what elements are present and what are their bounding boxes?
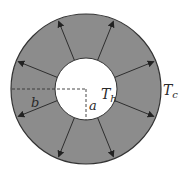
annulus-diagram: Th Tc b a xyxy=(0,0,184,171)
label-outer-radius: b xyxy=(31,95,39,110)
label-outer-temperature: Tc xyxy=(163,82,178,100)
label-inner-radius: a xyxy=(89,98,97,113)
